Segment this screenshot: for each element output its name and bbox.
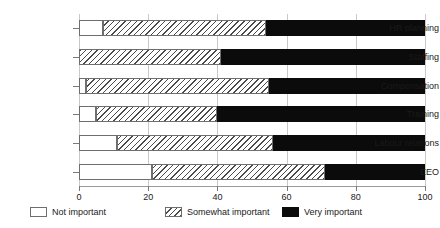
category-tick [73, 86, 79, 87]
bar-segment [86, 78, 269, 94]
x-axis-tick [356, 186, 357, 191]
x-axis-tick [217, 186, 218, 191]
bar-segment [79, 49, 221, 65]
gridline [356, 14, 357, 186]
category-label: HR planning [365, 23, 439, 33]
x-axis-tick [425, 186, 426, 191]
bar-segment [96, 106, 217, 122]
plot-area [79, 14, 425, 186]
bar-segment [79, 135, 117, 151]
bar-segment [152, 164, 325, 180]
legend-item: Not important [30, 205, 106, 219]
category-tick [73, 28, 79, 29]
x-axis-tick-label: 80 [341, 192, 371, 203]
bar-segment [79, 164, 152, 180]
legend-label: Very important [304, 207, 362, 218]
category-label: Staffing [365, 52, 439, 62]
gridline [79, 14, 80, 186]
bar-segment [117, 135, 273, 151]
bar-segment [79, 78, 86, 94]
x-axis-tick-label: 20 [133, 192, 163, 203]
black-swatch-icon [282, 207, 299, 217]
category-tick [73, 172, 79, 173]
category-tick [73, 114, 79, 115]
gridline [217, 14, 218, 186]
category-tick [73, 143, 79, 144]
hatched-swatch-icon [165, 207, 182, 217]
x-axis-tick-label: 60 [272, 192, 302, 203]
x-axis-tick-label: 0 [64, 192, 94, 203]
category-label: Compensation [365, 81, 439, 91]
category-tick [73, 57, 79, 58]
category-label: Training [365, 109, 439, 119]
gridline [287, 14, 288, 186]
x-axis-tick-label: 40 [202, 192, 232, 203]
bar-segment [103, 20, 266, 36]
gridline [148, 14, 149, 186]
bar-segment [79, 20, 103, 36]
chart-legend: Not importantSomewhat importantVery impo… [0, 205, 439, 223]
legend-label: Not important [52, 207, 106, 218]
bar-segment [79, 106, 96, 122]
x-axis-line [79, 186, 426, 187]
white-swatch-icon [30, 207, 47, 217]
x-axis-tick [287, 186, 288, 191]
category-label: EEO [365, 167, 439, 177]
x-axis-tick [79, 186, 80, 191]
legend-item: Very important [282, 205, 362, 219]
gridline [425, 14, 426, 186]
legend-label: Somewhat important [187, 207, 270, 218]
legend-item: Somewhat important [165, 205, 270, 219]
x-axis-tick [148, 186, 149, 191]
x-axis-tick-label: 100 [410, 192, 440, 203]
category-label: Labour relations [365, 138, 439, 148]
